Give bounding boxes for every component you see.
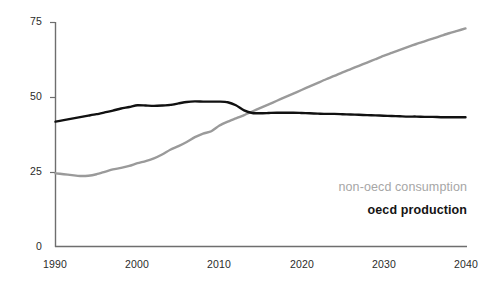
x-tick-label-1990: 1990 xyxy=(30,258,80,270)
chart-container: 75 50 25 0 1990 2000 2010 2020 2030 2040… xyxy=(0,0,480,290)
x-tick-label-2010: 2010 xyxy=(194,258,244,270)
x-tick-label-2040: 2040 xyxy=(441,258,480,270)
y-tick-label-50: 50 xyxy=(10,90,42,102)
series-label-non-oecd-consumption: non-oecd consumption xyxy=(339,180,467,194)
series-line-oecd-production xyxy=(56,101,466,121)
x-tick-label-2000: 2000 xyxy=(112,258,162,270)
line-chart-plot xyxy=(0,0,480,290)
x-tick-label-2020: 2020 xyxy=(277,258,327,270)
series-line-non-oecd-consumption xyxy=(56,28,466,176)
series-label-oecd-production: oecd production xyxy=(368,203,467,217)
y-tick-label-0: 0 xyxy=(10,240,42,252)
x-tick-label-2030: 2030 xyxy=(359,258,409,270)
y-tick-label-25: 25 xyxy=(10,165,42,177)
y-tick-label-75: 75 xyxy=(10,15,42,27)
